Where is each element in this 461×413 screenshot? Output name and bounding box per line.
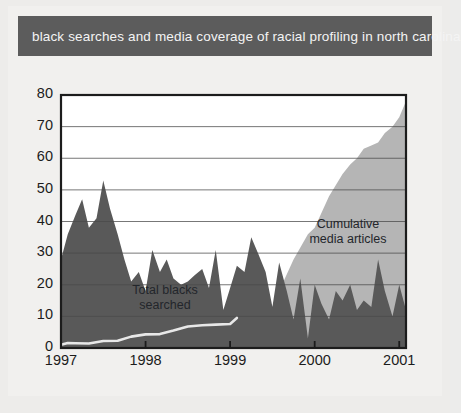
y-axis-label-80: 80 (23, 85, 53, 101)
annotation-cumulative-media-articles-line1: Cumulative (309, 217, 386, 232)
annotation-total-blacks-searched-line1: Total blacks (132, 283, 197, 298)
y-axis-label-30: 30 (23, 243, 53, 259)
y-axis-label-20: 20 (23, 275, 53, 291)
x-axis-label-1999: 1999 (205, 352, 255, 368)
annotation-total-blacks-searched-line2: searched (132, 298, 197, 313)
y-axis-label-50: 50 (23, 180, 53, 196)
x-axis-label-2001: 2001 (374, 352, 424, 368)
annotation-total-blacks-searched: Total blackssearched (132, 283, 197, 314)
annotation-cumulative-media-articles-line2: media articles (309, 232, 386, 247)
x-axis-label-1997: 1997 (36, 352, 86, 368)
y-axis-label-60: 60 (23, 148, 53, 164)
y-axis-label-40: 40 (23, 212, 53, 228)
annotation-cumulative-media-articles: Cumulativemedia articles (309, 217, 386, 248)
y-axis-label-70: 70 (23, 117, 53, 133)
x-axis-label-1998: 1998 (121, 352, 171, 368)
y-axis-label-10: 10 (23, 306, 53, 322)
x-axis-label-2000: 2000 (290, 352, 340, 368)
